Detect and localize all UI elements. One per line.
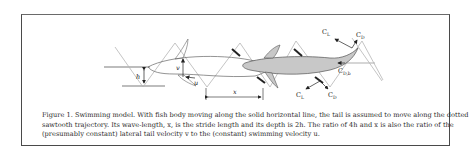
- label-h: h: [136, 73, 140, 81]
- caption-line: (presumably constant) lateral tail veloc…: [42, 130, 440, 140]
- cl-bottom-arrow: [306, 81, 320, 89]
- label-v: v: [176, 64, 180, 72]
- label-u: u: [194, 79, 198, 87]
- figure-caption: Figure 1. Swimming model. With fish body…: [42, 111, 440, 140]
- label-x: x: [233, 88, 237, 96]
- caption-line: sawtooth trajectory. Its wave-length, x,…: [42, 121, 440, 131]
- caption-line: Figure 1. Swimming model. With fish body…: [42, 111, 440, 121]
- label-cl-bottom: CL: [296, 91, 304, 100]
- label-cd-bottom: CD: [328, 91, 337, 100]
- label-cd-top: CD: [356, 31, 365, 40]
- cl-top-arrow: [335, 39, 352, 48]
- pelvic-fin: [265, 72, 278, 88]
- dorsal-fin: [264, 45, 280, 58]
- label-cl-top: CL: [322, 28, 330, 37]
- label-cdb: CD,b: [338, 67, 351, 76]
